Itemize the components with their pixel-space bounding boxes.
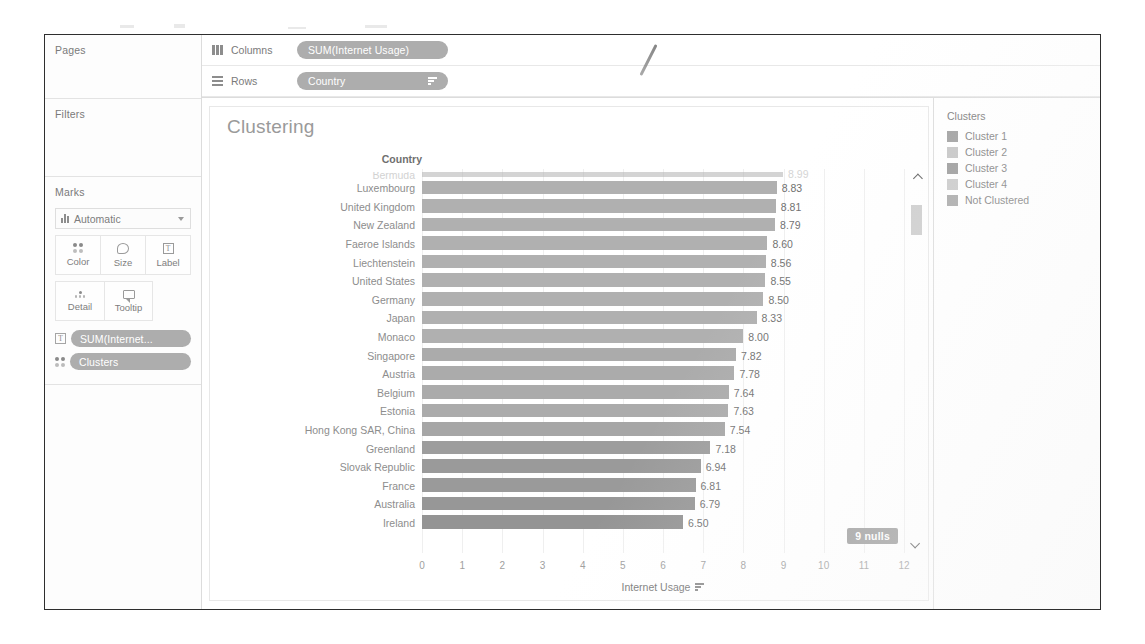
vertical-scrollbar[interactable] bbox=[909, 169, 924, 553]
bar-row[interactable]: Japan8.33 bbox=[210, 309, 904, 328]
filters-shelf[interactable]: Filters bbox=[45, 99, 201, 177]
color-button[interactable]: Color bbox=[55, 235, 100, 275]
bar[interactable] bbox=[422, 292, 763, 306]
pill-clusters[interactable]: Clusters bbox=[70, 353, 191, 370]
bar-row-label[interactable]: Ireland bbox=[210, 517, 422, 529]
columns-icon bbox=[211, 45, 224, 55]
bar-row-label[interactable]: Singapore bbox=[210, 350, 422, 362]
x-axis-tick: 7 bbox=[700, 560, 706, 571]
bar-row[interactable]: Ireland6.50 bbox=[210, 514, 904, 533]
bar-row-label[interactable]: Germany bbox=[210, 294, 422, 306]
sort-descending-icon[interactable] bbox=[695, 583, 704, 591]
x-axis[interactable]: 0123456789101112 bbox=[422, 560, 904, 574]
bar-row-label[interactable]: Monaco bbox=[210, 331, 422, 343]
bar-row[interactable]: Liechtenstein8.56 bbox=[210, 253, 904, 272]
bar[interactable] bbox=[422, 385, 729, 399]
bar-row-label[interactable]: Austria bbox=[210, 368, 422, 380]
bar-row-label[interactable]: Australia bbox=[210, 498, 422, 510]
visualization-area: Clustering Country Bermuda8.99Luxembourg… bbox=[202, 98, 934, 609]
rows-shelf[interactable]: Rows Country bbox=[202, 66, 1100, 97]
bar[interactable] bbox=[422, 172, 783, 177]
bar-row-label[interactable]: Bermuda bbox=[210, 172, 422, 179]
rows-pill-country[interactable]: Country bbox=[297, 72, 448, 90]
legend-item[interactable]: Cluster 4 bbox=[947, 178, 1087, 190]
bar-row-label[interactable]: Hong Kong SAR, China bbox=[210, 424, 422, 436]
bar-row-label[interactable]: Greenland bbox=[210, 443, 422, 455]
bar-row[interactable]: France6.81 bbox=[210, 477, 904, 496]
detail-button[interactable]: Detail bbox=[55, 281, 104, 321]
bar-value-label: 6.94 bbox=[706, 461, 726, 473]
bar[interactable] bbox=[422, 441, 710, 455]
bar-row-label[interactable]: Estonia bbox=[210, 405, 422, 417]
bar-row-label[interactable]: France bbox=[210, 480, 422, 492]
bar-row[interactable]: Luxembourg8.83 bbox=[210, 179, 904, 198]
bar[interactable] bbox=[422, 199, 776, 213]
bar-row-label[interactable]: Slovak Republic bbox=[210, 461, 422, 473]
rows-icon bbox=[211, 76, 224, 86]
columns-pill-sum-internet-usage[interactable]: SUM(Internet Usage) bbox=[297, 41, 448, 59]
bar-track: 8.00 bbox=[422, 328, 904, 347]
bar-row[interactable]: Slovak Republic6.94 bbox=[210, 458, 904, 477]
bar-row[interactable]: Belgium7.64 bbox=[210, 384, 904, 403]
legend-item[interactable]: Not Clustered bbox=[947, 194, 1087, 206]
bar[interactable] bbox=[422, 348, 736, 362]
bar-row[interactable]: New Zealand8.79 bbox=[210, 216, 904, 235]
scroll-down-button[interactable] bbox=[909, 536, 924, 551]
x-axis-tick: 6 bbox=[660, 560, 666, 571]
scrollbar-thumb[interactable] bbox=[911, 205, 922, 235]
nulls-badge[interactable]: 9 nulls bbox=[847, 528, 898, 544]
bar-row[interactable]: Monaco8.00 bbox=[210, 328, 904, 347]
x-axis-title[interactable]: Internet Usage bbox=[422, 581, 904, 593]
bar-row[interactable]: Estonia7.63 bbox=[210, 402, 904, 421]
pill-sum-internet-usage[interactable]: SUM(Internet... bbox=[71, 330, 191, 347]
bar-value-label: 7.78 bbox=[739, 368, 759, 380]
row-field-header[interactable]: Country bbox=[210, 153, 422, 165]
bar-row[interactable]: Germany8.50 bbox=[210, 291, 904, 310]
bar[interactable] bbox=[422, 478, 696, 492]
bar[interactable] bbox=[422, 497, 695, 511]
bar-row-label[interactable]: United Kingdom bbox=[210, 201, 422, 213]
bar-row-label[interactable]: United States bbox=[210, 275, 422, 287]
legend-item[interactable]: Cluster 2 bbox=[947, 146, 1087, 158]
bar-row[interactable]: Singapore7.82 bbox=[210, 346, 904, 365]
bar-row-label[interactable]: Japan bbox=[210, 312, 422, 324]
bar[interactable] bbox=[422, 181, 777, 195]
bar-track: 6.81 bbox=[422, 477, 904, 496]
bar[interactable] bbox=[422, 329, 743, 343]
bar[interactable] bbox=[422, 218, 775, 232]
tooltip-icon bbox=[123, 290, 135, 299]
bar[interactable] bbox=[422, 255, 766, 269]
bar-track: 7.78 bbox=[422, 365, 904, 384]
tooltip-button[interactable]: Tooltip bbox=[104, 281, 153, 321]
bar-row-label[interactable]: Luxembourg bbox=[210, 182, 422, 194]
bar-row[interactable]: United States8.55 bbox=[210, 272, 904, 291]
bar[interactable] bbox=[422, 311, 757, 325]
sort-descending-icon[interactable] bbox=[428, 77, 437, 85]
bar-row-label[interactable]: Belgium bbox=[210, 387, 422, 399]
bar-row[interactable]: Hong Kong SAR, China7.54 bbox=[210, 421, 904, 440]
bar[interactable] bbox=[422, 366, 734, 380]
bar[interactable] bbox=[422, 515, 683, 529]
bar[interactable] bbox=[422, 273, 765, 287]
bar[interactable] bbox=[422, 422, 725, 436]
bar[interactable] bbox=[422, 404, 728, 418]
bar-row[interactable]: Australia6.79 bbox=[210, 495, 904, 514]
bar-row-label[interactable]: New Zealand bbox=[210, 219, 422, 231]
legend-item[interactable]: Cluster 3 bbox=[947, 162, 1087, 174]
legend-item[interactable]: Cluster 1 bbox=[947, 130, 1087, 142]
bar-row[interactable]: Greenland7.18 bbox=[210, 439, 904, 458]
bar[interactable] bbox=[422, 236, 767, 250]
bar-row[interactable]: United Kingdom8.81 bbox=[210, 198, 904, 217]
bar-row[interactable]: Austria7.78 bbox=[210, 365, 904, 384]
bar-row-label[interactable]: Faeroe Islands bbox=[210, 238, 422, 250]
gridline bbox=[904, 169, 905, 553]
label-button[interactable]: T Label bbox=[145, 235, 191, 275]
pages-shelf[interactable]: Pages bbox=[45, 35, 201, 99]
marks-type-select[interactable]: Automatic bbox=[55, 208, 191, 229]
bar-row-label[interactable]: Liechtenstein bbox=[210, 257, 422, 269]
bar-row[interactable]: Faeroe Islands8.60 bbox=[210, 235, 904, 254]
bar-row[interactable]: Bermuda8.99 bbox=[210, 169, 904, 179]
size-button[interactable]: Size bbox=[100, 235, 145, 275]
scroll-up-button[interactable] bbox=[909, 171, 924, 186]
bar[interactable] bbox=[422, 459, 701, 473]
